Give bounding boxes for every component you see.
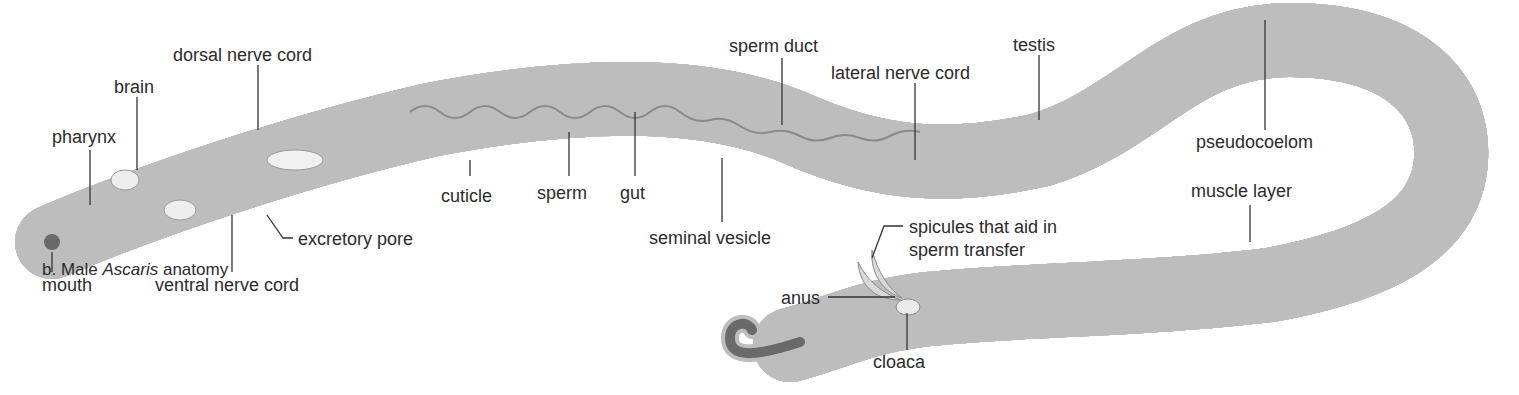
label-anus: anus bbox=[781, 288, 820, 308]
caption-prefix: b. Male bbox=[42, 260, 102, 279]
label-seminal-vesicle: seminal vesicle bbox=[649, 228, 771, 248]
label-cloaca: cloaca bbox=[873, 352, 925, 372]
label-pharynx: pharynx bbox=[52, 127, 116, 147]
label-cuticle: cuticle bbox=[441, 186, 492, 206]
label-excretory-pore: excretory pore bbox=[298, 229, 413, 249]
label-pseudocoelom: pseudocoelom bbox=[1196, 132, 1313, 152]
label-gut: gut bbox=[620, 183, 645, 203]
caption-genus: Ascaris bbox=[102, 260, 158, 279]
caption-suffix: anatomy bbox=[158, 260, 228, 279]
label-brain: brain bbox=[114, 77, 154, 97]
label-lateral-nerve-cord: lateral nerve cord bbox=[831, 63, 970, 83]
label-sperm-duct: sperm duct bbox=[729, 36, 818, 56]
label-spicules: spicules that aid in sperm transfer bbox=[909, 216, 1089, 262]
label-sperm: sperm bbox=[537, 183, 587, 203]
label-dorsal-nerve-cord: dorsal nerve cord bbox=[173, 45, 312, 65]
label-testis: testis bbox=[1013, 35, 1055, 55]
label-muscle-layer: muscle layer bbox=[1191, 181, 1292, 201]
figure-caption: b. Male Ascaris anatomy bbox=[42, 260, 228, 280]
ascaris-anatomy-figure: dorsal nerve cord brain pharynx mouth ve… bbox=[0, 0, 1519, 395]
